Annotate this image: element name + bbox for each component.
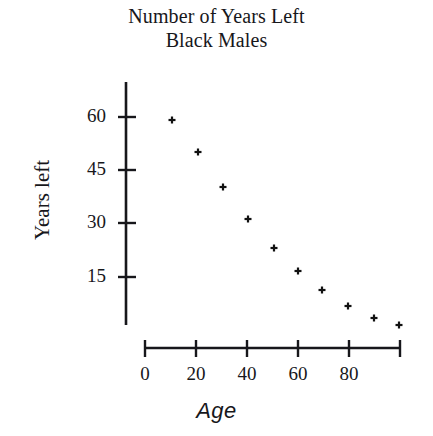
y-axis-title: Years left	[30, 110, 55, 290]
data-point	[295, 268, 302, 275]
x-axis-title: Age	[0, 398, 433, 424]
x-tick-label-0: 0	[125, 363, 165, 385]
x-tick-label-20: 20	[176, 363, 216, 385]
data-point	[220, 184, 227, 191]
y-tick-label-15: 15	[62, 265, 106, 287]
data-point	[396, 322, 403, 329]
y-tick-label-60: 60	[62, 105, 106, 127]
data-markers	[169, 117, 403, 329]
data-point	[345, 303, 352, 310]
data-point	[245, 216, 252, 223]
data-point	[195, 149, 202, 156]
data-point	[319, 287, 326, 294]
data-point	[371, 315, 378, 322]
x-tick-label-40: 40	[227, 363, 267, 385]
y-tick-label-45: 45	[62, 158, 106, 180]
chart-page: Number of Years Left Black Males	[0, 0, 433, 436]
x-tick-label-60: 60	[278, 363, 318, 385]
y-tick-label-30: 30	[62, 211, 106, 233]
data-point	[271, 245, 278, 252]
x-tick-label-80: 80	[329, 363, 369, 385]
data-point	[169, 117, 176, 124]
